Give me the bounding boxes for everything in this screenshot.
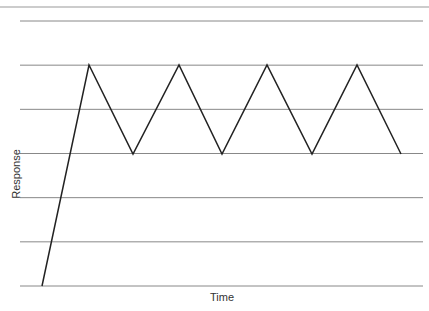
y-axis-label: Response (10, 144, 22, 204)
response-series-line (42, 65, 401, 286)
x-axis-label: Time (172, 291, 272, 303)
line-chart (0, 0, 429, 311)
